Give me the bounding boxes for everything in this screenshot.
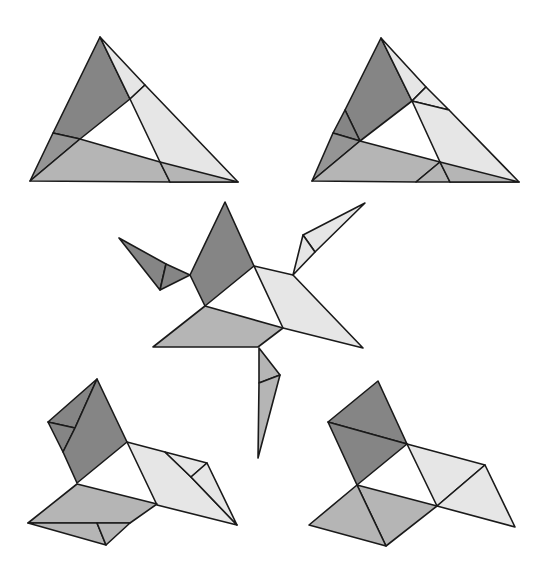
medium-piece	[28, 484, 157, 523]
dark-piece	[345, 38, 412, 141]
medium-piece	[258, 375, 280, 458]
dark-piece	[190, 202, 254, 306]
dark-piece	[53, 37, 130, 139]
triangle-top-right	[312, 38, 519, 182]
triangle-top-left	[30, 37, 238, 182]
dark-piece	[119, 238, 166, 290]
figure-bottom-right	[309, 381, 515, 546]
medium-piece	[153, 306, 283, 347]
dark-piece	[160, 264, 190, 290]
creature-middle	[119, 202, 365, 458]
medium-piece	[28, 523, 106, 545]
diagram-canvas	[0, 0, 550, 585]
light-piece	[303, 203, 365, 252]
figure-bottom-left	[28, 379, 237, 545]
